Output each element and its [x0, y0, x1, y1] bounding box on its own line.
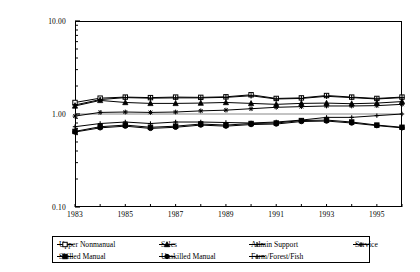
data-point-marker [400, 126, 404, 130]
data-point-marker [123, 110, 128, 115]
data-point-marker [63, 242, 67, 246]
data-point-marker [73, 130, 77, 134]
x-axis-label-4: 1991 [256, 210, 296, 219]
chart-page: 10.00 1.00 0.10 198319851987198919911993… [0, 0, 420, 272]
legend-marker-filled-square-icon [57, 252, 73, 261]
legend-item-farm-forest-fish[interactable]: Farm/Forest/Fish [249, 252, 303, 261]
data-point-marker [255, 254, 259, 258]
series-unskilled-manual [73, 119, 404, 134]
y-axis-label-0: 10.00 [26, 17, 66, 26]
chart-legend: Upper NonmanualSalesAdmin SupportService… [52, 236, 370, 263]
legend-marker-filled-triangle-icon [159, 240, 175, 249]
y-axis-label-1: 1.00 [26, 110, 66, 119]
data-point-marker [375, 123, 379, 127]
x-axis-label-0: 1983 [55, 210, 95, 219]
data-point-marker [73, 114, 78, 119]
data-point-marker [349, 115, 353, 119]
data-point-marker [165, 254, 169, 258]
data-point-marker [374, 103, 379, 108]
chart-canvas [0, 0, 420, 272]
legend-marker-plus-icon [249, 240, 265, 249]
x-axis-label-5: 1993 [307, 210, 347, 219]
legend-marker-small-plus-icon [249, 252, 265, 261]
data-point-marker [299, 104, 304, 109]
data-point-marker [98, 126, 102, 130]
data-point-marker [254, 242, 259, 247]
x-axis-label-6: 1995 [357, 210, 397, 219]
data-point-marker [400, 112, 404, 116]
x-axis-label-2: 1987 [156, 210, 196, 219]
series-sales [72, 98, 404, 109]
data-point-marker [349, 104, 354, 109]
data-point-marker [148, 110, 153, 115]
data-point-marker [63, 254, 67, 258]
data-point-marker [224, 108, 229, 113]
legend-item-unskilled-manual[interactable]: Unskilled Manual [159, 252, 216, 261]
legend-marker-filled-circle-icon [159, 252, 175, 261]
data-point-marker [359, 242, 364, 247]
x-axis-label-3: 1989 [206, 210, 246, 219]
legend-marker-open-square-icon [57, 240, 73, 249]
data-point-marker [173, 125, 177, 129]
data-point-marker [349, 121, 353, 125]
data-point-marker [400, 102, 405, 107]
legend-item-admin-support[interactable]: Admin Support [249, 240, 298, 249]
legend-item-sales[interactable]: Sales [159, 240, 177, 249]
legend-item-skilled-manual[interactable]: Skilled Manual [57, 252, 106, 261]
data-point-marker [173, 110, 178, 115]
legend-item-service[interactable]: Service [353, 240, 378, 249]
data-point-marker [148, 126, 152, 130]
data-point-marker [249, 106, 254, 111]
data-point-marker [324, 104, 329, 109]
data-point-marker [98, 110, 103, 115]
data-point-marker [198, 108, 203, 113]
legend-item-upper-nonmanual[interactable]: Upper Nonmanual [57, 240, 115, 249]
x-axis-label-1: 1985 [105, 210, 145, 219]
legend-marker-star-icon [353, 240, 369, 249]
data-point-marker [123, 124, 127, 128]
data-point-marker [274, 105, 279, 110]
legend-row-2: Skilled ManualUnskilled ManualFarm/Fores… [53, 251, 369, 264]
series-service [73, 102, 405, 119]
